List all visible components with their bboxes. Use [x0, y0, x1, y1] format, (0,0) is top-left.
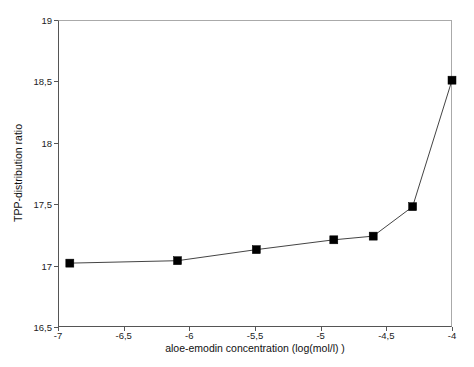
- x-tick-label: -6: [185, 330, 193, 341]
- x-tick-mark: [321, 327, 322, 331]
- x-tick-mark: [452, 327, 453, 331]
- y-tick-mark: [54, 266, 58, 267]
- y-axis-title: TPP-distribution ratio: [12, 124, 24, 222]
- y-tick-mark: [54, 204, 58, 205]
- x-tick-label: -7: [54, 330, 62, 341]
- x-tick-mark: [255, 327, 256, 331]
- x-tick-label: -5,5: [247, 330, 263, 341]
- y-tick-label: 18,5: [14, 76, 52, 87]
- chart-figure: 16,51717,51818,519 -7-6,5-6-5,5-5-4,5-4 …: [0, 0, 474, 367]
- x-tick-label: -4: [448, 330, 456, 341]
- x-tick-mark: [124, 327, 125, 331]
- x-tick-label: -5: [316, 330, 324, 341]
- y-tick-mark: [54, 20, 58, 21]
- y-tick-mark: [54, 143, 58, 144]
- y-tick-label: 16,5: [14, 322, 52, 333]
- x-tick-label: -6,5: [115, 330, 131, 341]
- y-tick-label: 19: [14, 15, 52, 26]
- y-tick-mark: [54, 81, 58, 82]
- x-tick-mark: [189, 327, 190, 331]
- x-axis-title: aloe-emodin concentration (log(mol/l) ): [165, 342, 345, 354]
- x-tick-label: -4,5: [378, 330, 394, 341]
- x-tick-mark: [58, 327, 59, 331]
- y-tick-label: 17: [14, 260, 52, 271]
- x-tick-mark: [386, 327, 387, 331]
- plot-area: [58, 20, 452, 327]
